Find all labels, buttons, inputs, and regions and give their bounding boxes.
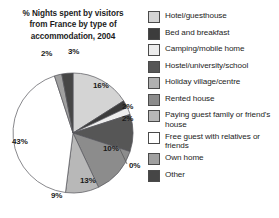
legend-item-label: Rented house bbox=[165, 93, 214, 104]
legend-item-label: Own home bbox=[165, 152, 204, 163]
legend-swatch-icon bbox=[148, 153, 160, 165]
legend-swatch-icon bbox=[148, 132, 160, 144]
legend-item[interactable]: Hostel/university/school bbox=[148, 60, 279, 75]
legend-item-label: Camping/mobile home bbox=[165, 43, 244, 54]
legend-swatch-icon bbox=[148, 110, 160, 122]
legend-item-label: Bed and breakfast bbox=[165, 27, 229, 38]
legend-item[interactable]: Holiday village/centre bbox=[148, 76, 279, 91]
legend-item[interactable]: Hotel/guesthouse bbox=[148, 10, 279, 25]
legend-item-label: Holiday village/centre bbox=[165, 76, 240, 87]
pie-chart-area: 3%16%2%2%10%0%13%9%43%2% bbox=[0, 40, 150, 218]
pie-chart-figure: % Nights spent by visitors from France b… bbox=[0, 0, 279, 218]
chart-title-line-1: % Nights spent by visitors bbox=[4, 8, 142, 19]
legend-swatch-icon bbox=[148, 61, 160, 73]
pie-slice-value-label: 2% bbox=[122, 102, 133, 111]
legend-swatch-icon bbox=[148, 170, 160, 182]
legend-item-label: Paying guest family or friend's house bbox=[165, 109, 279, 129]
pie-slice-value-label: 13% bbox=[80, 176, 96, 185]
pie-slice-value-label: 3% bbox=[68, 47, 79, 56]
legend-item[interactable]: Bed and breakfast bbox=[148, 27, 279, 42]
pie-chart-svg bbox=[0, 40, 150, 218]
pie-slice-value-label: 10% bbox=[103, 144, 119, 153]
legend-item-label: Other bbox=[165, 169, 185, 180]
legend-swatch-icon bbox=[148, 77, 160, 89]
legend: Hotel/guesthouseBed and breakfastCamping… bbox=[148, 10, 279, 185]
pie-slice-value-label: 9% bbox=[51, 191, 62, 200]
pie-slices-group bbox=[13, 73, 133, 193]
legend-item-label: Hostel/university/school bbox=[165, 60, 248, 71]
pie-slice-value-label: 0% bbox=[129, 161, 140, 170]
legend-item[interactable]: Paying guest family or friend's house bbox=[148, 109, 279, 129]
chart-title-line-2: from France by type of bbox=[4, 19, 142, 30]
pie-slice-value-label: 2% bbox=[122, 114, 133, 123]
legend-item[interactable]: Own home bbox=[148, 152, 279, 167]
legend-item-label: Free guest with relatives or friends bbox=[165, 131, 279, 151]
pie-slice-value-label: 43% bbox=[12, 137, 28, 146]
pie-slice-value-label: 2% bbox=[41, 49, 52, 58]
legend-item-label: Hotel/guesthouse bbox=[165, 10, 227, 21]
legend-item[interactable]: Free guest with relatives or friends bbox=[148, 131, 279, 151]
legend-swatch-icon bbox=[148, 94, 160, 106]
legend-swatch-icon bbox=[148, 28, 160, 40]
legend-item[interactable]: Rented house bbox=[148, 93, 279, 108]
legend-item[interactable]: Other bbox=[148, 169, 279, 184]
chart-title: % Nights spent by visitors from France b… bbox=[4, 8, 142, 42]
legend-swatch-icon bbox=[148, 11, 160, 23]
legend-item[interactable]: Camping/mobile home bbox=[148, 43, 279, 58]
legend-swatch-icon bbox=[148, 44, 160, 56]
pie-slice-value-label: 16% bbox=[93, 81, 109, 90]
